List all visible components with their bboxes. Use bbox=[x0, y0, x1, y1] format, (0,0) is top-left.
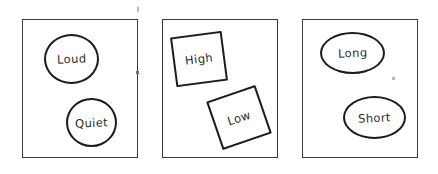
panel-long-short: Long Short bbox=[302, 19, 418, 158]
panel-loud-quiet: Loud Quiet bbox=[22, 19, 138, 158]
scan-speck-edge bbox=[136, 71, 139, 74]
shape-circle-quiet[interactable]: Quiet bbox=[66, 98, 117, 147]
shape-label-long: Long bbox=[337, 45, 367, 60]
shape-label-short: Short bbox=[358, 110, 391, 125]
shape-label-high: High bbox=[184, 50, 214, 67]
shape-label-low: Low bbox=[225, 107, 252, 128]
shape-square-low[interactable]: Low bbox=[206, 85, 272, 150]
panel-high-low: High Low bbox=[162, 19, 278, 158]
diagram-canvas: Loud Quiet High Low Long Short bbox=[0, 0, 438, 174]
scan-speck-right bbox=[392, 77, 395, 80]
shape-ellipse-short[interactable]: Short bbox=[343, 96, 406, 139]
shape-square-high[interactable]: High bbox=[170, 31, 228, 87]
shape-circle-loud[interactable]: Loud bbox=[44, 34, 99, 84]
shape-label-quiet: Quiet bbox=[75, 115, 109, 130]
shape-label-loud: Loud bbox=[56, 51, 86, 66]
scan-speck-top bbox=[137, 7, 139, 12]
shape-ellipse-long[interactable]: Long bbox=[320, 32, 385, 74]
